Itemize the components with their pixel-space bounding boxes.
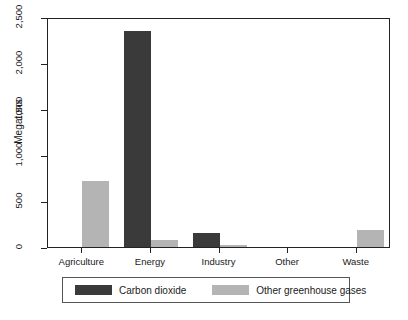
x-axis-tick xyxy=(81,248,82,253)
x-axis-tick xyxy=(356,248,357,253)
bar xyxy=(193,233,220,247)
y-axis-tick-label: 500 xyxy=(13,178,24,224)
y-axis-tick-label: 1,000 xyxy=(13,132,24,178)
plot-area xyxy=(47,18,390,248)
x-axis-tick xyxy=(287,248,288,253)
bar xyxy=(151,240,178,247)
y-axis-tick-label: 2,000 xyxy=(13,40,24,86)
x-axis-tick xyxy=(219,248,220,253)
x-axis-tick xyxy=(150,248,151,253)
chart-legend: Carbon dioxide Other greenhouse gases xyxy=(62,277,350,303)
legend-label: Carbon dioxide xyxy=(119,285,186,296)
legend-swatch-icon xyxy=(75,285,112,295)
bar-chart: Megatons 05001,0001,5002,0002,500 Agricu… xyxy=(0,0,408,320)
y-axis-tick-label: 2,500 xyxy=(13,0,24,40)
y-axis-tick-label: 1,500 xyxy=(13,86,24,132)
bar xyxy=(82,181,109,247)
legend-entry-carbon-dioxide: Carbon dioxide xyxy=(75,285,186,296)
y-axis-tick-label: 0 xyxy=(13,224,24,270)
legend-swatch-icon xyxy=(212,285,249,295)
bars-layer xyxy=(48,19,389,247)
y-axis-tick xyxy=(41,248,47,249)
legend-entry-other-greenhouse-gases: Other greenhouse gases xyxy=(212,285,366,296)
x-axis-tick-label: Waste xyxy=(311,256,401,267)
bar xyxy=(357,230,384,247)
legend-label: Other greenhouse gases xyxy=(256,285,366,296)
bar xyxy=(220,245,247,247)
bar xyxy=(124,31,151,247)
